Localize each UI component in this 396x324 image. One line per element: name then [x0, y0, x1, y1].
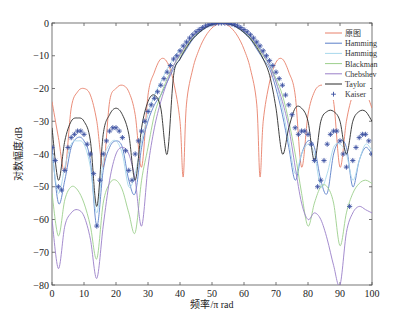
- y-tick-label: 0: [44, 18, 49, 29]
- kaiser-marker: [264, 53, 269, 58]
- kaiser-marker: [350, 158, 355, 163]
- kaiser-marker: [136, 138, 141, 143]
- kaiser-marker: [315, 184, 320, 189]
- kaiser-marker: [325, 142, 330, 147]
- chart: 01020304050607080901000−10−20−30−40−50−6…: [0, 0, 396, 324]
- kaiser-marker: [363, 132, 368, 137]
- y-tick-label: −40: [33, 149, 49, 160]
- kaiser-marker: [155, 89, 160, 94]
- kaiser-marker: [312, 158, 317, 163]
- legend-label: Chebshev: [345, 70, 377, 79]
- y-tick-label: −30: [33, 116, 49, 127]
- x-tick-label: 10: [79, 288, 89, 299]
- x-axis-title: 频率/π rad: [190, 298, 233, 310]
- kaiser-marker: [174, 53, 179, 58]
- kaiser-marker: [337, 138, 342, 143]
- kaiser-marker: [59, 187, 64, 192]
- kaiser-marker: [286, 102, 291, 107]
- legend-label: Taylor: [345, 80, 366, 89]
- kaiser-marker: [241, 27, 246, 32]
- kaiser-marker: [139, 128, 144, 133]
- x-tick-label: 50: [207, 288, 217, 299]
- kaiser-marker: [142, 119, 147, 124]
- x-tick-label: 0: [50, 288, 55, 299]
- kaiser-marker: [104, 138, 109, 143]
- kaiser-marker: [209, 21, 214, 26]
- y-tick-label: −50: [33, 181, 49, 192]
- x-tick-label: 40: [175, 288, 185, 299]
- kaiser-marker: [149, 102, 154, 107]
- x-tick-label: 90: [335, 288, 345, 299]
- kaiser-marker: [318, 178, 323, 183]
- kaiser-marker: [334, 128, 339, 133]
- x-tick-label: 20: [111, 288, 121, 299]
- y-tick-label: −60: [33, 214, 49, 225]
- kaiser-marker: [369, 151, 374, 156]
- legend-label: 原图: [345, 29, 361, 38]
- kaiser-marker: [273, 70, 278, 75]
- kaiser-marker: [305, 132, 310, 137]
- legend-label: Kaiser: [345, 90, 366, 99]
- kaiser-marker: [120, 135, 125, 140]
- kaiser-marker: [133, 151, 138, 156]
- y-tick-label: −10: [33, 50, 49, 61]
- kaiser-marker: [91, 171, 96, 176]
- kaiser-marker: [165, 70, 170, 75]
- kaiser-marker: [321, 158, 326, 163]
- y-tick-label: −20: [33, 83, 49, 94]
- kaiser-marker: [65, 145, 70, 150]
- kaiser-marker: [81, 132, 86, 137]
- legend-label: Blackman: [345, 60, 377, 69]
- x-tick-label: 60: [239, 288, 249, 299]
- kaiser-marker: [49, 145, 54, 150]
- kaiser-marker: [347, 204, 352, 209]
- kaiser-marker: [123, 148, 128, 153]
- legend-label: Hamming: [345, 49, 377, 58]
- kaiser-marker: [129, 178, 134, 183]
- kaiser-marker: [62, 168, 67, 173]
- kaiser-marker: [353, 145, 358, 150]
- kaiser-marker: [88, 151, 93, 156]
- x-tick-label: 30: [143, 288, 153, 299]
- kaiser-marker: [341, 151, 346, 156]
- x-tick-label: 70: [271, 288, 281, 299]
- kaiser-marker: [309, 142, 314, 147]
- kaiser-marker: [366, 138, 371, 143]
- kaiser-marker: [97, 178, 102, 183]
- y-tick-label: −80: [33, 280, 49, 291]
- legend: 原图HammingHammingBlackmanChebshevTaylorKa…: [322, 26, 377, 100]
- x-tick-label: 100: [365, 288, 380, 299]
- kaiser-marker: [158, 83, 163, 88]
- x-tick-label: 80: [303, 288, 313, 299]
- legend-label: Hamming: [345, 39, 377, 48]
- kaiser-marker: [344, 165, 349, 170]
- y-tick-label: −70: [33, 247, 49, 258]
- kaiser-marker: [280, 83, 285, 88]
- y-axis-title: 对数幅度/dB: [12, 126, 24, 181]
